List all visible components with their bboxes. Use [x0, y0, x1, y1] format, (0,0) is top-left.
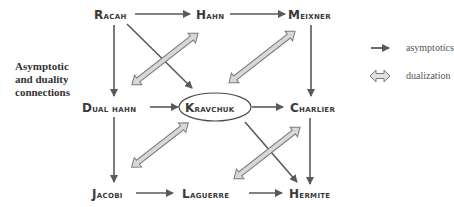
title-line: and duality [15, 73, 70, 86]
node-racah: Racah [94, 9, 127, 21]
node-dual-hahn: Dual hahn [82, 102, 136, 114]
title-line: Asymptotic [15, 60, 70, 73]
title-line: connections [15, 86, 70, 99]
node-kravchuk: Kravchuk [185, 102, 235, 114]
node-hahn: Hahn [196, 9, 224, 21]
node-laguerre: Laguerre [182, 188, 229, 200]
node-jacobi: Jacobi [92, 188, 123, 200]
node-hermite: Hermite [289, 188, 330, 200]
legend-asymptotics-label: asymptotics [406, 42, 454, 53]
dualization-legend-icon [370, 70, 390, 82]
diagram-title: Asymptotic and duality connections [15, 60, 70, 99]
node-charlier: Charlier [290, 102, 335, 114]
legend-dualization-label: dualization [406, 70, 450, 81]
node-meixner: Meixner [288, 9, 331, 21]
